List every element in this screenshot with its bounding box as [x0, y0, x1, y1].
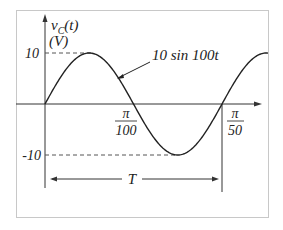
svg-text:100: 100 [116, 123, 137, 138]
period-label: T [128, 171, 138, 187]
y-tick-neg10: -10 [22, 148, 41, 163]
y-axis-arrow-icon [43, 14, 48, 22]
x-tick-pi-over-50: π 50 [227, 106, 244, 138]
svg-text:π: π [122, 106, 130, 121]
x-axis-arrow-icon [254, 102, 262, 107]
y-tick-10: 10 [25, 46, 39, 61]
period-left-arrowhead-icon [50, 177, 57, 182]
function-label: 10 sin 100t [152, 47, 220, 63]
y-axis-unit: (V) [49, 33, 68, 50]
svg-text:50: 50 [228, 123, 242, 138]
sine-chart: vC(t) (V) 10 -10 10 sin 100t π 100 π 50 … [0, 0, 283, 230]
x-tick-pi-over-100: π 100 [115, 106, 137, 138]
period-right-arrowhead-icon [212, 177, 219, 182]
svg-text:π: π [231, 106, 239, 121]
